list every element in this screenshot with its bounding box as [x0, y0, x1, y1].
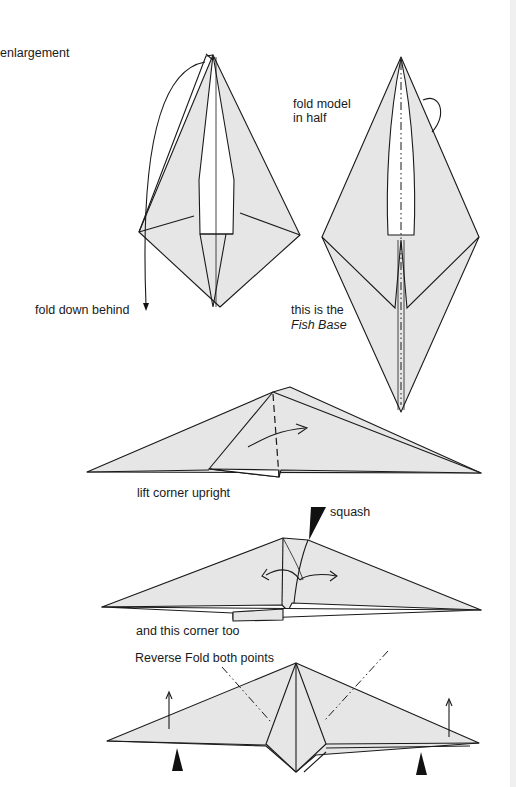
fold-down-behind-label: fold down behind — [35, 303, 130, 318]
arrow-down-icon — [143, 303, 149, 311]
figure-step-1 — [0, 0, 516, 787]
kite-diagram-1 — [139, 54, 300, 307]
fish-base-label-1: this is the — [291, 303, 344, 318]
reverse-fold-label: Reverse Fold both points — [135, 651, 274, 666]
fish-base-label-2: Fish Base — [291, 318, 347, 333]
enlargement-label: enlargement — [0, 46, 70, 61]
this-corner-too-label: and this corner too — [136, 624, 240, 639]
fold-model-label-1: fold model — [293, 97, 351, 112]
fold-model-label-2: in half — [293, 111, 326, 126]
squash-label: squash — [330, 505, 370, 520]
lift-corner-label: lift corner upright — [137, 486, 230, 501]
